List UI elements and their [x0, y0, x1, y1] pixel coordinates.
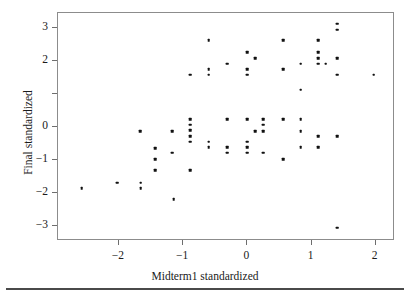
data-point: [336, 28, 339, 31]
data-point: [282, 118, 285, 121]
data-point: [262, 130, 265, 133]
x-axis-tick: [375, 240, 376, 245]
y-axis-title: Final standardized: [22, 53, 35, 213]
data-point: [299, 88, 302, 91]
data-point: [80, 187, 83, 190]
bottom-rule: [6, 288, 404, 290]
y-axis-tick: [52, 93, 57, 94]
data-point: [246, 51, 249, 54]
y-axis-tick: [52, 27, 57, 28]
data-point: [254, 57, 257, 60]
x-axis-tick-label: 1: [296, 250, 326, 262]
scatter-plot-figure: 320−1−2−3−2−1012 Final standardized Midt…: [0, 0, 410, 297]
data-point: [262, 123, 265, 126]
data-point: [189, 169, 192, 172]
x-axis-tick: [118, 240, 119, 245]
data-point: [246, 146, 249, 149]
data-point: [336, 73, 339, 76]
data-point: [282, 68, 285, 71]
data-point: [299, 118, 302, 121]
data-point: [171, 151, 174, 154]
data-point: [262, 118, 265, 121]
x-axis-title: Midterm1 standardized: [0, 270, 410, 283]
x-axis-tick-label: 0: [231, 250, 261, 262]
plot-frame: [57, 12, 394, 240]
x-axis-tick-label: −2: [103, 250, 133, 262]
y-axis-tick-label: 3: [22, 21, 48, 33]
x-axis-tick: [182, 240, 183, 245]
data-point: [226, 151, 229, 154]
data-point: [226, 62, 229, 65]
data-point: [189, 141, 192, 144]
data-point: [189, 73, 192, 76]
y-axis-tick: [52, 60, 57, 61]
x-axis-tick: [246, 240, 247, 245]
data-point: [154, 147, 157, 150]
data-point: [317, 57, 320, 60]
data-point: [336, 23, 339, 26]
data-point: [246, 141, 249, 144]
data-point: [246, 151, 249, 154]
x-axis-tick-label: 2: [360, 250, 390, 262]
data-points-layer: [58, 13, 393, 239]
y-axis-tick: [52, 225, 57, 226]
data-point: [317, 51, 320, 54]
data-point: [299, 146, 302, 149]
x-axis-tick-label: −1: [167, 250, 197, 262]
data-point: [254, 130, 257, 133]
data-point: [282, 158, 285, 161]
data-point: [189, 118, 192, 121]
data-point: [299, 130, 302, 133]
data-point: [208, 146, 211, 149]
data-point: [208, 68, 211, 71]
data-point: [208, 39, 211, 42]
data-point: [140, 187, 143, 190]
data-point: [189, 129, 192, 132]
data-point: [140, 181, 143, 184]
data-point: [246, 118, 249, 121]
data-point: [246, 68, 249, 71]
data-point: [299, 62, 302, 65]
data-point: [317, 135, 320, 138]
data-point: [154, 169, 157, 172]
data-point: [336, 135, 339, 138]
data-point: [208, 141, 211, 144]
data-point: [189, 123, 192, 126]
y-axis-tick: [52, 192, 57, 193]
data-point: [189, 135, 192, 138]
x-axis-tick: [311, 240, 312, 245]
y-axis-tick: [52, 126, 57, 127]
data-point: [154, 158, 157, 161]
data-point: [317, 146, 320, 149]
data-point: [246, 73, 249, 76]
data-point: [317, 62, 320, 65]
data-point: [262, 151, 265, 154]
data-point: [226, 118, 229, 121]
data-point: [373, 73, 376, 76]
data-point: [336, 57, 339, 60]
data-point: [208, 73, 211, 76]
data-point: [324, 62, 327, 65]
data-point: [317, 39, 320, 42]
data-point: [116, 181, 119, 184]
y-axis-tick-label: −3: [22, 219, 48, 231]
data-point: [139, 130, 142, 133]
y-axis-tick: [52, 159, 57, 160]
data-point: [171, 130, 174, 133]
data-point: [336, 226, 339, 229]
data-point: [226, 146, 229, 149]
data-point: [282, 39, 285, 42]
data-point: [172, 198, 175, 201]
